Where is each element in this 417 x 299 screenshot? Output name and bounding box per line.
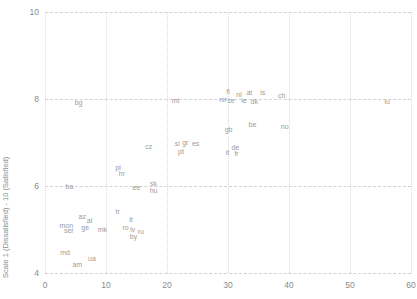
data-point-label: ru <box>138 228 144 235</box>
x-tick-label: 40 <box>284 280 293 290</box>
data-point-label: lu <box>384 97 389 104</box>
data-point-label: mk <box>98 225 107 232</box>
x-tick-label: 50 <box>345 280 354 290</box>
data-point-label: se <box>227 96 234 103</box>
data-point-label: cz <box>145 142 152 149</box>
data-point-label: lt <box>129 216 133 223</box>
gridline-horizontal <box>45 273 411 274</box>
data-point-label: ba <box>65 183 73 190</box>
y-tick-label: 4 <box>34 268 39 278</box>
data-point-label: lv <box>130 225 135 232</box>
x-tick-label: 0 <box>43 280 48 290</box>
data-point-label: be <box>248 120 256 127</box>
gridline-vertical <box>228 12 229 273</box>
data-point-label: al <box>87 216 92 223</box>
data-point-label: fr <box>234 149 238 156</box>
data-point-label: no <box>281 122 289 129</box>
x-tick-label: 60 <box>406 280 415 290</box>
data-point-label: tr <box>115 208 119 215</box>
data-point-label: ch <box>278 92 285 99</box>
data-point-label: az <box>79 212 86 219</box>
scatter-chart: Life satisfaction Scale 1 (Dissatisfied)… <box>0 0 417 299</box>
data-point-label: is <box>260 88 265 95</box>
data-point-label: hu <box>150 187 158 194</box>
gridline-horizontal <box>45 186 411 187</box>
gridline-vertical <box>167 12 168 273</box>
data-point-label: si <box>175 139 180 146</box>
data-point-label: hr <box>119 170 125 177</box>
data-point-label: ser <box>64 226 74 233</box>
x-tick-label: 10 <box>101 280 110 290</box>
data-point-label: dk <box>251 98 258 105</box>
gridline-horizontal <box>45 12 411 13</box>
data-point-label: at <box>246 88 252 95</box>
gridline-vertical <box>45 12 46 273</box>
data-point-label: fi <box>226 88 230 95</box>
plot-area: bgmtlufinirsenlieatdkischgbbenoczsigresp… <box>45 12 411 273</box>
data-point-label: sk <box>150 180 157 187</box>
y-tick-label: 10 <box>30 7 39 17</box>
gridline-vertical <box>289 12 290 273</box>
y-tick-label: 6 <box>34 181 39 191</box>
data-point-label: ro <box>122 224 128 231</box>
y-tick-label: 8 <box>34 94 39 104</box>
y-axis-title-line2: Scale 1 (Dissatisfied) - 10 (Satisfied) <box>1 157 10 278</box>
data-point-label: bg <box>75 99 83 106</box>
data-point-label: mt <box>172 97 180 104</box>
x-tick-label: 30 <box>223 280 232 290</box>
data-point-label: pt <box>178 148 184 155</box>
data-point-label: it <box>226 149 230 156</box>
data-point-label: ge <box>81 224 89 231</box>
y-axis-title: Life satisfaction Scale 1 (Dissatisfied)… <box>1 128 17 278</box>
gridline-vertical <box>411 12 412 273</box>
data-point-label: am <box>72 261 82 268</box>
data-point-label: ua <box>88 255 96 262</box>
data-point-label: ee <box>133 183 141 190</box>
gridline-vertical <box>106 12 107 273</box>
data-point-label: ie <box>241 96 246 103</box>
data-point-label: md <box>60 249 70 256</box>
data-point-label: nir <box>219 96 227 103</box>
data-point-label: es <box>192 139 199 146</box>
x-tick-label: 20 <box>162 280 171 290</box>
data-point-label: gb <box>225 125 233 132</box>
data-point-label: gr <box>182 139 188 146</box>
gridline-vertical <box>350 12 351 273</box>
data-point-label: by <box>130 232 137 239</box>
